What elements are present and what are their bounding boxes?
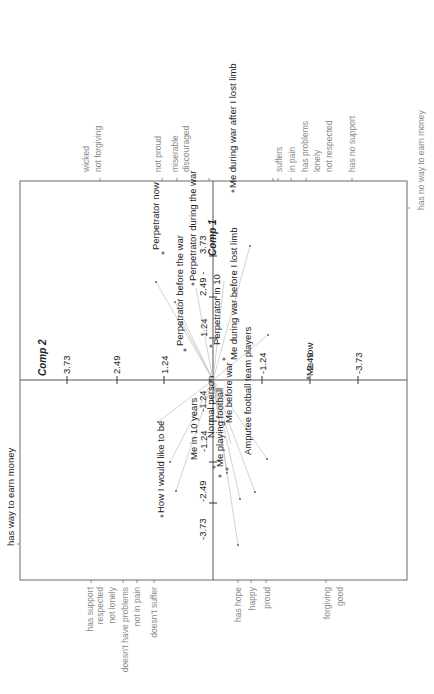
element-me-playing: Me playing football	[214, 388, 225, 467]
construct-in-pain: in pain	[287, 147, 297, 172]
construct-forgiving: forgiving	[322, 587, 332, 619]
comp2-tick-m124: -1.24	[257, 352, 268, 374]
comp2-tick-124: 1.24	[159, 356, 170, 375]
element-me-before-limb: Me during war before I lost limb	[228, 227, 239, 360]
comp1-tick-m249-b: -2.49	[197, 480, 208, 502]
element-perp-in10: Perpetrator in 10	[211, 274, 222, 345]
element-amputee: Amputee football team players	[242, 326, 253, 455]
construct-respected: respected	[95, 587, 105, 625]
comp1-tick-249: 2.49 -	[197, 272, 208, 296]
element-perp-now: Perpetrator now	[150, 182, 161, 250]
bottom-edge-ticks	[17, 544, 326, 583]
construct-has-problems: has problems	[300, 121, 310, 172]
element-how-like: How I would like to be	[155, 421, 166, 513]
construct-happy: happy	[247, 586, 257, 610]
element-me-after-limb: Me during war after I lost limb	[227, 63, 238, 188]
construct-no-support: has no support	[347, 115, 357, 172]
comp2-tick-249: 2.49	[111, 356, 122, 375]
comp1-title: Comp 1	[207, 219, 218, 256]
comp1-tick-m124-b: -1.24	[197, 390, 208, 412]
construct-not-in-pain: not in pain	[132, 587, 142, 626]
construct-not-proud: not proud	[153, 136, 163, 172]
construct-not-lonely: not lonely	[107, 586, 117, 623]
construct-miserable: miserable	[170, 135, 180, 172]
comp2-tick-m373: -3.73	[353, 352, 364, 374]
comp2-tick-373: 3.73	[61, 356, 72, 375]
construct-lonely: lonely	[312, 149, 322, 172]
construct-not-forgiving: not forgiving	[93, 125, 103, 172]
element-me-now: Me now	[304, 343, 315, 376]
construct-has-hope: has hope	[233, 587, 243, 622]
construct-no-problems: doesn't have problems	[120, 587, 130, 672]
element-perp-during: Perpetrator during the war	[187, 171, 198, 281]
element-perp-before: Perpetrator before the war	[174, 235, 185, 346]
construct-proud: proud	[262, 587, 272, 609]
construct-suffers: suffers	[274, 147, 284, 172]
construct-discouraged: discouraged	[181, 125, 191, 172]
comp2-title: Comp 2	[37, 339, 48, 376]
construct-way-money: has way to earn money	[5, 448, 16, 546]
construct-not-respected: not respected	[324, 120, 334, 172]
construct-no-way-money: has no way to earn money	[416, 110, 426, 210]
comp1-tick-m373-b: -3.73	[197, 518, 208, 540]
construct-has-support: has support	[85, 586, 95, 631]
top-edge-ticks	[100, 178, 410, 208]
construct-wicked: wicked	[81, 146, 91, 173]
biplot-chart: 3.73 2.49 1.24 -1.24 -2.49 -3.73 3.73 2.…	[0, 0, 434, 694]
construct-doesnt-suffer: doesn't suffer	[149, 587, 159, 638]
construct-good: good	[335, 587, 345, 606]
